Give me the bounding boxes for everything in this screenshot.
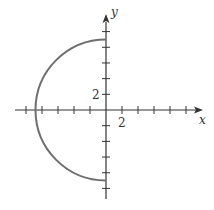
x-axis-label: x (199, 113, 206, 127)
y-axis-arrow-icon (103, 14, 110, 23)
y-axis-label: y (110, 5, 118, 19)
y-tick-label-2: 2 (92, 88, 100, 102)
axes (15, 14, 203, 199)
x-tick-label-2: 2 (118, 116, 126, 130)
semicircle-graph: x y 2 2 (0, 0, 214, 210)
